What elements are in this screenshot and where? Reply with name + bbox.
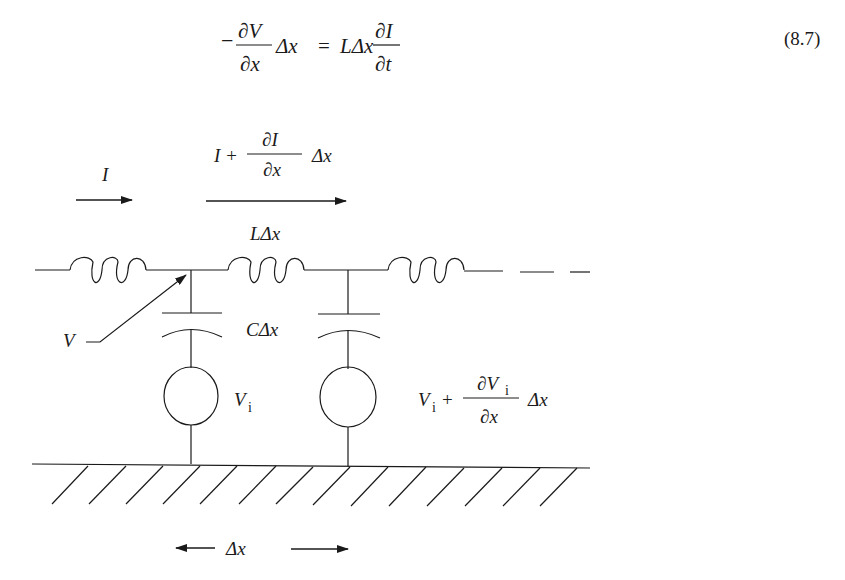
source-2-prefix: V bbox=[418, 389, 432, 410]
current-out-delta-x: Δx bbox=[311, 145, 332, 166]
source-2-prefix-subscript: i bbox=[432, 400, 436, 415]
source-1-label: V bbox=[234, 389, 248, 410]
spacing-label: Δx bbox=[225, 538, 246, 559]
inductor-3-icon bbox=[388, 257, 464, 282]
top-conductor bbox=[35, 257, 590, 282]
voltage-source-2-icon bbox=[320, 367, 376, 427]
voltage-label: V bbox=[63, 330, 77, 351]
transmission-line-diagram: I I + ∂I ∂x Δx LΔx V CΔx V i bbox=[0, 0, 845, 580]
capacitor-2-plate-bottom bbox=[318, 331, 380, 339]
current-out-denominator: ∂x bbox=[263, 159, 281, 180]
source-2-numerator: ∂V bbox=[477, 373, 500, 394]
capacitor-label: CΔx bbox=[246, 319, 279, 340]
current-out-prefix: I + bbox=[213, 145, 238, 166]
capacitor-1-plate-bottom bbox=[162, 330, 222, 338]
current-out-numerator: ∂I bbox=[262, 129, 279, 150]
inductor-label: LΔx bbox=[249, 223, 281, 244]
ground-plane bbox=[32, 464, 590, 506]
inductor-2-icon bbox=[228, 257, 304, 282]
current-in-label: I bbox=[101, 164, 110, 185]
source-1-subscript: i bbox=[248, 400, 252, 415]
shunt-branch-1 bbox=[162, 270, 222, 464]
source-2-delta-x: Δx bbox=[527, 389, 548, 410]
inductor-1-icon bbox=[70, 257, 146, 282]
voltage-source-1-icon bbox=[164, 367, 218, 425]
source-2-denominator: ∂x bbox=[480, 406, 498, 427]
source-2-numerator-subscript: i bbox=[505, 383, 509, 398]
source-2-plus: + bbox=[442, 389, 453, 410]
shunt-branch-2 bbox=[318, 270, 380, 466]
voltage-pointer-arrow bbox=[86, 275, 186, 342]
